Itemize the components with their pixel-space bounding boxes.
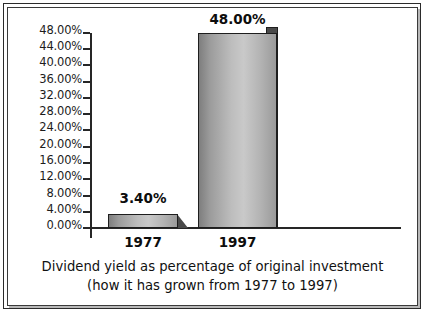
y-tick-label-4: 4.00%: [46, 204, 82, 216]
bar-1977-side-face: [177, 214, 188, 228]
bar-1977[interactable]: [108, 214, 178, 228]
y-tick-mark-36: [83, 81, 90, 83]
y-tick-mark-28: [83, 113, 90, 115]
y-tick-mark-48: [83, 32, 90, 34]
y-tick-label-28: 28.00%: [39, 106, 82, 118]
caption-line-1: Dividend yield as percentage of original…: [8, 257, 417, 276]
y-tick-label-36: 36.00%: [39, 74, 82, 86]
y-tick-mark-16: [83, 162, 90, 164]
y-tick-mark-12: [83, 178, 90, 180]
y-tick-mark-0: [83, 227, 90, 229]
bar-value-1977: 3.40%: [108, 190, 178, 206]
bar-chart: 48.00% 44.00% 40.00% 36.00% 32.00% 28.00…: [8, 8, 417, 305]
y-tick-label-20: 20.00%: [39, 139, 82, 151]
category-label-1977: 1977: [108, 234, 178, 250]
y-tick-label-12: 12.00%: [39, 171, 82, 183]
y-tick-label-24: 24.00%: [39, 122, 82, 134]
y-tick-label-40: 40.00%: [39, 57, 82, 69]
frame-shadow-bottom: [9, 306, 420, 308]
y-tick-label-16: 16.00%: [39, 155, 82, 167]
y-tick-label-44: 44.00%: [39, 41, 82, 53]
y-tick-mark-44: [83, 48, 90, 50]
y-tick-mark-32: [83, 97, 90, 99]
y-tick-label-48: 48.00%: [39, 25, 82, 37]
category-label-1997: 1997: [198, 234, 277, 250]
y-tick-mark-40: [83, 64, 90, 66]
y-tick-mark-4: [83, 211, 90, 213]
y-tick-mark-8: [83, 195, 90, 197]
chart-caption: Dividend yield as percentage of original…: [8, 257, 417, 295]
caption-line-2: (how it has grown from 1977 to 1997): [8, 276, 417, 295]
y-axis-line: [90, 33, 92, 238]
y-tick-mark-20: [83, 146, 90, 148]
y-tick-label-0: 0.00%: [46, 220, 82, 232]
bar-1997[interactable]: [198, 33, 277, 228]
y-tick-label-8: 8.00%: [46, 188, 82, 200]
frame-shadow-right: [418, 9, 420, 307]
y-tick-mark-24: [83, 129, 90, 131]
bar-value-1997: 48.00%: [198, 11, 277, 27]
y-tick-label-32: 32.00%: [39, 90, 82, 102]
